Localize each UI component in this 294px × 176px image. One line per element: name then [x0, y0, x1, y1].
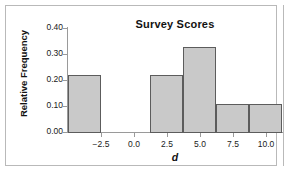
y-tick-mark: [63, 132, 67, 133]
x-tick-mark: [266, 133, 267, 137]
adjacent-frame-edge: [283, 5, 294, 166]
x-tick-mark: [101, 133, 102, 137]
chart-title: Survey Scores: [68, 18, 282, 30]
x-axis-title: d: [68, 151, 282, 163]
y-tick-label-wrap: 0.10: [27, 101, 63, 110]
y-tick-mark: [63, 54, 67, 55]
y-tick-mark: [63, 80, 67, 81]
x-tick-mark: [200, 133, 201, 137]
y-tick-mark: [63, 106, 67, 107]
y-axis-title: Relative Frequency: [18, 19, 29, 129]
histogram-bar: [68, 75, 101, 133]
y-tick-label: 0.40: [33, 23, 63, 32]
x-tick-mark: [167, 133, 168, 137]
y-tick-label-wrap: 0.20: [27, 75, 63, 84]
histogram-bar: [249, 104, 282, 133]
histogram-bar: [150, 75, 183, 133]
y-tick-label: 0.10: [33, 101, 63, 110]
y-tick-label-wrap: 0.40: [27, 23, 63, 32]
x-tick-label: 10.0: [246, 139, 286, 149]
y-tick-label: 0.30: [33, 49, 63, 58]
histogram-bar: [216, 104, 249, 133]
x-tick-mark: [233, 133, 234, 137]
y-tick-label-wrap: 0.00: [27, 127, 63, 136]
y-tick-label: 0.00: [33, 127, 63, 136]
chart-card: Survey Scores Relative Frequency 0.40 0.…: [5, 5, 277, 166]
x-tick-mark: [134, 133, 135, 137]
chart-screenshot: Survey Scores Relative Frequency 0.40 0.…: [0, 0, 294, 176]
y-tick-label-wrap: 0.30: [27, 49, 63, 58]
y-tick-mark: [63, 28, 67, 29]
histogram-bar: [183, 47, 216, 133]
y-tick-label: 0.20: [33, 75, 63, 84]
